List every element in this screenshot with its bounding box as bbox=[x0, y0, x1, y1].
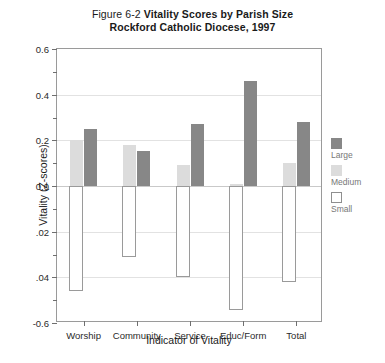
chart-title-block: Figure 6-2 Vitality Scores by Parish Siz… bbox=[0, 8, 385, 34]
plot-area: 0.60.40.20.0.02.04-0.6WorshipCommunitySe… bbox=[56, 48, 322, 322]
y-axis-minor-tick bbox=[53, 163, 57, 164]
bar-medium bbox=[70, 140, 83, 186]
bar-medium bbox=[177, 165, 190, 186]
x-axis-tick bbox=[84, 321, 85, 326]
bar-large bbox=[84, 129, 97, 186]
y-axis-tick bbox=[52, 49, 57, 50]
figure-container: Figure 6-2 Vitality Scores by Parish Siz… bbox=[0, 0, 385, 363]
y-axis-tick-label: 0.6 bbox=[36, 44, 49, 55]
x-axis-title: Indicator of Vitality bbox=[56, 334, 322, 346]
x-axis-tick bbox=[243, 321, 244, 326]
legend-entry: Large bbox=[331, 138, 383, 160]
legend-label: Large bbox=[331, 150, 383, 160]
legend-entry: Medium bbox=[331, 165, 383, 187]
bar-small bbox=[282, 186, 296, 282]
chart-title: Vitality Scores by Parish Size bbox=[144, 8, 293, 20]
y-axis-minor-tick bbox=[53, 255, 57, 256]
y-axis-minor-tick bbox=[53, 209, 57, 210]
bar-medium bbox=[123, 145, 136, 186]
y-axis-tick bbox=[52, 95, 57, 96]
y-axis-tick-label: .04 bbox=[36, 272, 49, 283]
x-axis-tick bbox=[137, 321, 138, 326]
bar-large bbox=[297, 122, 310, 186]
y-axis-tick-label: -0.6 bbox=[33, 318, 49, 329]
legend-label: Medium bbox=[331, 177, 383, 187]
bar-small bbox=[176, 186, 190, 277]
y-axis-tick bbox=[52, 186, 57, 187]
legend-swatch-small bbox=[331, 192, 342, 203]
chart-subtitle: Rockford Catholic Diocese, 1997 bbox=[0, 21, 385, 34]
y-axis-tick-label: 0.4 bbox=[36, 89, 49, 100]
bar-medium bbox=[283, 163, 296, 186]
chart-legend: LargeMediumSmall bbox=[331, 138, 383, 219]
bar-large bbox=[137, 151, 150, 186]
y-axis-tick bbox=[52, 232, 57, 233]
y-axis-minor-tick bbox=[53, 118, 57, 119]
y-axis-minor-tick bbox=[53, 300, 57, 301]
legend-label: Small bbox=[331, 204, 383, 214]
y-axis-tick-label: .02 bbox=[36, 226, 49, 237]
bar-small bbox=[122, 186, 136, 257]
gridline bbox=[57, 95, 321, 96]
x-axis-tick bbox=[190, 321, 191, 326]
bar-large bbox=[244, 81, 257, 186]
y-axis-tick bbox=[52, 277, 57, 278]
x-axis-tick bbox=[296, 321, 297, 326]
legend-entry: Small bbox=[331, 192, 383, 214]
figure-number: Figure 6-2 bbox=[92, 8, 144, 20]
legend-swatch-medium bbox=[331, 165, 342, 176]
y-axis-minor-tick bbox=[53, 72, 57, 73]
bar-small bbox=[69, 186, 83, 291]
y-axis-tick bbox=[52, 323, 57, 324]
bar-large bbox=[191, 124, 204, 186]
y-axis-title: Vitality (Z-scores) bbox=[37, 144, 49, 225]
legend-swatch-large bbox=[331, 138, 342, 149]
chart-title-line-1: Figure 6-2 Vitality Scores by Parish Siz… bbox=[0, 8, 385, 21]
bar-small bbox=[229, 186, 243, 310]
y-axis-tick bbox=[52, 140, 57, 141]
